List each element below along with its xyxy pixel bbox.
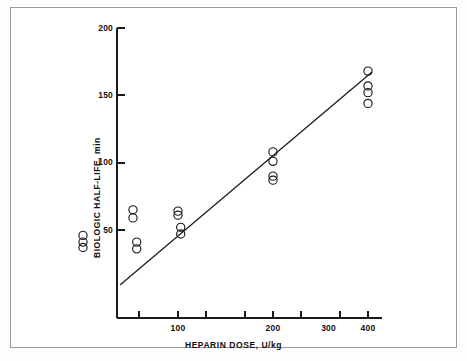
x-tick-label: 400 [348,323,388,333]
data-point [364,67,372,75]
y-tick-label: 200 [0,23,113,33]
x-tick-label: 200 [253,323,293,333]
data-point [79,243,87,251]
data-point [129,214,137,222]
data-point [269,157,277,165]
x-axis-label: HEPARIN DOSE, U/kg [0,340,467,350]
axis-lines [117,28,382,318]
data-point [129,206,137,214]
regression-line [120,72,372,285]
y-tick-label: 50 [0,225,113,235]
figure-page: HEPARIN DOSE, U/kg BIOLOGIC HALF-LIFE, m… [0,0,467,361]
data-point [269,148,277,156]
y-tick-label: 100 [0,157,113,167]
y-tick-label: 150 [0,90,113,100]
x-axis-ticks [139,311,368,318]
x-tick-label: 300 [309,323,349,333]
scatter-plot [0,0,467,361]
y-axis-label: BIOLOGIC HALF-LIFE, min [92,137,102,258]
y-axis-ticks [117,28,125,230]
x-tick-label: 100 [158,323,198,333]
data-point [364,99,372,107]
